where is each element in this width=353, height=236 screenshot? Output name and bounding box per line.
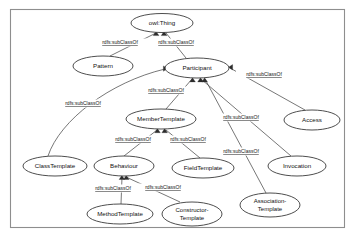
node-label-behaviour: Behaviour	[110, 162, 138, 169]
edge-label-text: rdfs:subClassOf	[65, 100, 101, 106]
edge-label-text: rdfs:subClassOf	[102, 39, 138, 45]
class-hierarchy-graph: rdfs:subClassOf rdfs:subClassOf rdfs:sub…	[0, 0, 353, 236]
node-behaviour[interactable]: Behaviour	[94, 156, 154, 176]
node-label-association-template-line1: Association-	[254, 198, 287, 204]
edge-label-constructortemplate-behaviour: rdfs:subClassOf	[135, 184, 191, 192]
node-member-template[interactable]: MemberTemplate	[126, 109, 196, 129]
node-association-template[interactable]: Association- Template	[240, 193, 300, 217]
node-label-class-template: ClassTemplate	[35, 162, 76, 169]
edge-label-participant-owlthing: rdfs:subClassOf	[148, 39, 204, 47]
edge-label-invocation-participant: rdfs:subClassOf	[213, 114, 269, 122]
edge-label-behaviour-membertemplate: rdfs:subClassOf	[105, 136, 161, 144]
edge-label-text: rdfs:subClassOf	[145, 184, 181, 190]
edge-label-associationtemplate-participant: rdfs:subClassOf	[213, 148, 269, 156]
edge-label-methodtemplate-behaviour: rdfs:subClassOf	[85, 185, 141, 193]
node-field-template[interactable]: FieldTemplate	[172, 158, 234, 178]
edge-label-text: rdfs:subClassOf	[95, 185, 131, 191]
node-label-field-template: FieldTemplate	[184, 164, 223, 171]
edge-label-access-participant: rdfs:subClassOf	[236, 71, 292, 79]
edge-label-pattern-owlthing: rdfs:subClassOf	[92, 39, 148, 47]
node-label-member-template: MemberTemplate	[137, 115, 185, 122]
node-method-template[interactable]: MethodTemplate	[87, 204, 153, 224]
arrowhead-associationtemplate-participant	[202, 78, 208, 82]
node-constructor-template[interactable]: Constructor- Template	[162, 202, 222, 226]
edge-label-classtemplate-participant: rdfs:subClassOf	[55, 100, 111, 108]
edge-label-text: rdfs:subClassOf	[148, 87, 184, 93]
node-label-pattern: Pattern	[93, 62, 114, 69]
edge-label-text: rdfs:subClassOf	[115, 136, 151, 142]
node-participant[interactable]: Participant	[165, 58, 229, 78]
node-class-template[interactable]: ClassTemplate	[23, 156, 87, 176]
node-label-constructor-template-line1: Constructor-	[175, 207, 208, 213]
edge-label-text: rdfs:subClassOf	[223, 114, 259, 120]
node-label-owl-thing: owl:Thing	[149, 19, 176, 26]
node-access[interactable]: Access	[284, 110, 340, 130]
node-label-access: Access	[302, 116, 322, 123]
node-label-invocation: Invocation	[283, 162, 312, 169]
node-label-constructor-template-line2: Template	[180, 215, 205, 221]
edge-label-fieldtemplate-membertemplate: rdfs:subClassOf	[160, 136, 216, 144]
node-pattern[interactable]: Pattern	[73, 56, 133, 76]
edge-fieldtemplate-membertemplate	[166, 130, 200, 158]
node-label-association-template-line2: Template	[258, 206, 283, 212]
node-invocation[interactable]: Invocation	[268, 156, 326, 176]
node-owl-thing[interactable]: owl:Thing	[131, 14, 193, 33]
edge-label-membertemplate-participant: rdfs:subClassOf	[138, 87, 194, 95]
edge-label-text: rdfs:subClassOf	[246, 71, 282, 77]
edge-label-text: rdfs:subClassOf	[170, 136, 206, 142]
edge-label-text: rdfs:subClassOf	[158, 39, 194, 45]
node-label-participant: Participant	[182, 64, 212, 71]
node-label-method-template: MethodTemplate	[97, 210, 143, 217]
ontology-diagram: rdfs:subClassOf rdfs:subClassOf rdfs:sub…	[0, 0, 353, 236]
edge-label-text: rdfs:subClassOf	[223, 148, 259, 154]
